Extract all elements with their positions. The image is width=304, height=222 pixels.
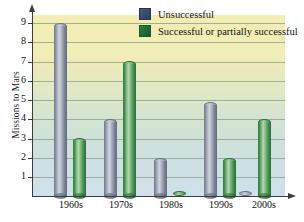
- y-tick-mark: [28, 62, 33, 63]
- y-tick-mark: [28, 139, 33, 140]
- y-tick-label: 8: [8, 35, 26, 46]
- y-axis-line: [32, 11, 33, 197]
- y-tick-label: 1: [8, 170, 26, 181]
- gridline-8: [33, 42, 285, 43]
- bar-body: [73, 141, 86, 196]
- bar-body: [258, 122, 271, 196]
- bar-1970s-successful: [123, 61, 136, 196]
- bar-body: [104, 122, 117, 196]
- y-tick-label: 6: [8, 74, 26, 85]
- bar-2000s-successful: [258, 119, 271, 196]
- y-tick-label: 7: [8, 55, 26, 66]
- y-tick-mark: [28, 119, 33, 120]
- y-tick-label: 5: [8, 93, 26, 104]
- legend-swatch-successful-icon: [139, 25, 151, 37]
- bar-1990s-unsuccessful: [204, 102, 217, 197]
- bar-body: [223, 161, 236, 197]
- bar-1970s-unsuccessful: [104, 119, 117, 196]
- y-tick-label: 3: [8, 132, 26, 143]
- bar-1960s-unsuccessful: [54, 23, 67, 196]
- x-axis-arrow-icon: [288, 193, 296, 199]
- y-tick-label: 4: [8, 112, 26, 123]
- bar-1980s-unsuccessful: [154, 158, 167, 197]
- y-tick-mark: [28, 81, 33, 82]
- x-label-1990s: 1990s: [197, 199, 245, 210]
- bar-1960s-successful: [73, 138, 86, 196]
- bar-body: [204, 105, 217, 197]
- x-label-1960s: 1960s: [47, 199, 95, 210]
- gridline-3: [33, 139, 285, 140]
- legend-swatch-unsuccessful-icon: [139, 8, 151, 20]
- legend-item-successful: Successful or partially successful: [139, 25, 298, 37]
- gridline-5: [33, 100, 285, 101]
- y-tick-mark: [28, 42, 33, 43]
- y-axis-arrow-icon: [29, 4, 35, 12]
- bar-1990s-successful: [223, 158, 236, 197]
- y-tick-label: 2: [8, 151, 26, 162]
- gridline-7: [33, 62, 285, 63]
- y-tick-label: 9: [8, 16, 26, 27]
- y-tick-mark: [28, 177, 33, 178]
- chart-legend: Unsuccessful Successful or partially suc…: [139, 8, 298, 37]
- missions-to-mars-bar-chart: Missions to Mars: [0, 0, 304, 222]
- legend-label-successful: Successful or partially successful: [158, 26, 298, 37]
- legend-item-unsuccessful: Unsuccessful: [139, 8, 298, 20]
- bar-body: [54, 26, 67, 196]
- plot-area: [33, 15, 285, 196]
- bar-body: [154, 161, 167, 197]
- y-tick-mark: [28, 158, 33, 159]
- x-axis-line: [33, 196, 289, 197]
- x-label-1980s: 1980s: [147, 199, 195, 210]
- x-label-2000s: 2000s: [240, 199, 288, 210]
- legend-label-unsuccessful: Unsuccessful: [158, 9, 214, 20]
- gridline-4: [33, 119, 285, 120]
- y-tick-mark: [28, 23, 33, 24]
- x-label-1970s: 1970s: [97, 199, 145, 210]
- y-tick-mark: [28, 100, 33, 101]
- gridline-6: [33, 81, 285, 82]
- bar-body: [123, 64, 136, 196]
